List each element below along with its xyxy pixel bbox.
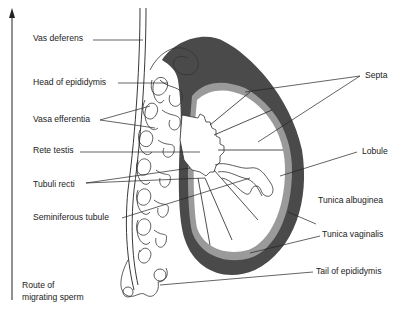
label-vasa-efferentia: Vasa efferentia: [33, 115, 90, 124]
caption-route-line1: Route of: [22, 281, 55, 290]
route-arrow: [9, 8, 15, 300]
caption-route-line2: migrating sperm: [22, 293, 84, 302]
label-tunica-albuginea: Tunica albuginea: [318, 196, 383, 205]
label-vas-deferens: Vas deferens: [33, 34, 83, 43]
label-seminiferous-tubule: Seminiferous tubule: [33, 213, 109, 222]
vas-deferens-tube: [126, 8, 146, 290]
label-rete-testis: Rete testis: [33, 146, 74, 155]
label-tail-of-epididymis: Tail of epididymis: [316, 267, 381, 276]
label-septa: Septa: [365, 71, 387, 80]
label-tubuli-recti: Tubuli recti: [33, 180, 75, 189]
label-tunica-vaginalis: Tunica vaginalis: [322, 230, 383, 239]
label-lobule: Lobule: [362, 147, 388, 156]
label-head-of-epididymis: Head of epididymis: [33, 78, 106, 87]
testis-diagram: Vas deferens Head of epididymis Vasa eff…: [0, 0, 403, 309]
